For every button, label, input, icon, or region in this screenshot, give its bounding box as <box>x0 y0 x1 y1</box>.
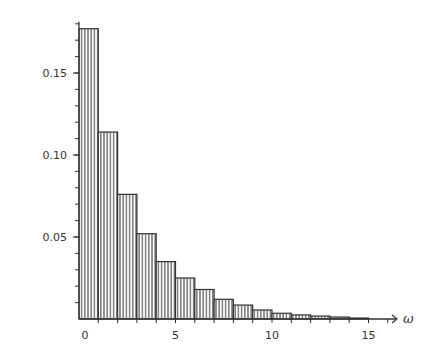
x-tick-label: 5 <box>172 329 179 342</box>
histogram-bar <box>233 305 252 319</box>
histogram-bars <box>79 29 369 319</box>
histogram-bar <box>176 278 195 319</box>
x-tick-label: 0 <box>82 329 89 342</box>
x-axis-label: ω <box>403 311 414 326</box>
x-tick-label: 15 <box>362 329 376 342</box>
histogram-bar <box>118 194 137 319</box>
histogram-bar <box>79 29 98 319</box>
histogram-bar <box>253 310 272 319</box>
x-tick-label: 10 <box>265 329 279 342</box>
y-tick-label: 0.15 <box>43 67 68 80</box>
histogram-bar <box>137 234 156 319</box>
y-tick-label: 0.05 <box>43 231 68 244</box>
histogram-bar <box>214 299 233 319</box>
histogram-chart: 0.050.100.15051015ω <box>0 0 434 350</box>
y-tick-label: 0.10 <box>43 149 68 162</box>
histogram-bar <box>156 262 175 319</box>
histogram-bar <box>195 289 214 319</box>
histogram-bar <box>98 132 117 319</box>
histogram-bar <box>272 313 291 319</box>
